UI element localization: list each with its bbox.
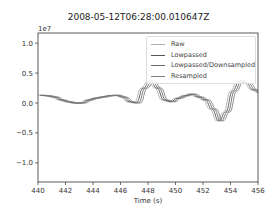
x-axis-label: Time (s) (133, 197, 163, 205)
x-tick-label: 442 (59, 187, 72, 195)
legend-item: Raw (151, 39, 255, 49)
legend-item: Lowpassed/Downsampled (151, 60, 255, 70)
legend-label: Raw (171, 39, 185, 49)
y-axis: 1.00.50.0−0.5−1.0 (16, 40, 38, 168)
y-scale-label: 1e7 (38, 25, 51, 33)
x-tick-label: 450 (169, 187, 182, 195)
series-layer (38, 81, 264, 121)
x-tick-label: 444 (86, 187, 100, 195)
legend-swatch (151, 65, 165, 66)
y-tick-label: −1.0 (16, 159, 33, 167)
legend-label: Resampled (171, 71, 207, 81)
x-tick-label: 446 (114, 187, 128, 195)
line-chart: 440442444446448450452454456 1.00.50.0−0.… (0, 0, 277, 215)
x-tick-label: 454 (224, 187, 238, 195)
legend-label: Lowpassed/Downsampled (171, 60, 255, 70)
x-axis: 440442444446448450452454456 (31, 182, 265, 195)
legend-item: Lowpassed (151, 50, 255, 60)
x-tick-label: 456 (251, 187, 265, 195)
x-tick-label: 440 (31, 187, 44, 195)
legend-swatch (151, 76, 165, 77)
legend-swatch (151, 55, 165, 56)
legend-label: Lowpassed (171, 50, 207, 60)
y-tick-label: 0.0 (22, 100, 33, 108)
legend-item: Resampled (151, 71, 255, 81)
legend: RawLowpassedLowpassed/DownsampledResampl… (146, 36, 256, 84)
x-tick-label: 448 (141, 187, 154, 195)
y-tick-label: 0.5 (22, 70, 33, 78)
x-tick-label: 452 (196, 187, 209, 195)
y-tick-label: −0.5 (16, 129, 33, 137)
legend-swatch (151, 44, 165, 45)
y-tick-label: 1.0 (22, 40, 33, 48)
